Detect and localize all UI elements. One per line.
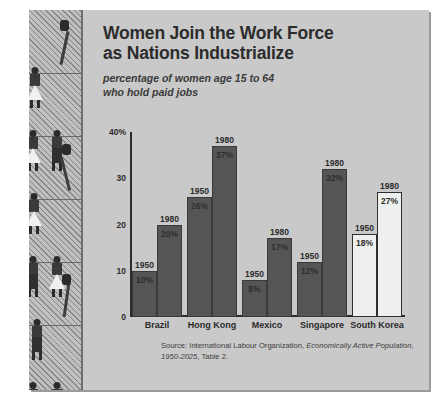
y-tick-10: 10 (100, 266, 126, 276)
illustration-panel-6 (29, 325, 81, 388)
illustration-panel-5 (29, 262, 81, 326)
bar-south-korea-1980: 198027% (377, 192, 402, 317)
bar-brazil-1950: 195010% (132, 271, 157, 317)
bar-south-korea-1950: 195018% (352, 234, 377, 317)
source-note: Source: International Labour Organizatio… (161, 340, 423, 362)
title-line-2: as Nations Industrialize (103, 44, 413, 64)
bar-year-label: 1950 (190, 186, 209, 196)
bar-value-label: 26% (191, 201, 208, 211)
chart-content: Women Join the Work Force as Nations Ind… (83, 10, 429, 390)
bar-value-label: 18% (356, 238, 373, 248)
bar-year-label: 1980 (270, 227, 289, 237)
bar-value-label: 12% (301, 266, 318, 276)
bar-mexico-1950: 19508% (242, 280, 267, 317)
bar-hong-kong-1980: 198037% (212, 146, 237, 317)
bar-value-label: 8% (248, 284, 260, 294)
category-label-south-korea: South Korea (350, 320, 404, 330)
source-prefix: Source: International Labour Organizatio… (161, 341, 306, 350)
bar-group-singapore: 195012%198032%Singapore (296, 132, 351, 317)
bar-value-label: 10% (136, 275, 153, 285)
y-tick-0: 0 (100, 312, 126, 322)
category-label-brazil: Brazil (145, 320, 170, 330)
bar-singapore-1980: 198032% (322, 169, 347, 317)
bar-value-label: 20% (161, 229, 178, 239)
illustration-panel-2 (29, 73, 81, 137)
bar-group-south-korea: 195018%198027%South Korea (351, 132, 406, 317)
bar-value-label: 32% (326, 173, 343, 183)
category-label-singapore: Singapore (300, 320, 344, 330)
y-tick-40: 40% (100, 127, 126, 137)
bar-value-label: 17% (271, 242, 288, 252)
title-line-1: Women Join the Work Force (103, 24, 413, 44)
bar-year-label: 1980 (215, 135, 234, 145)
bar-group-brazil: 195010%198020%Brazil (131, 132, 186, 317)
bar-hong-kong-1950: 195026% (187, 197, 212, 317)
bar-group-hong-kong: 195026%198037%Hong Kong (186, 132, 241, 317)
page-title: Women Join the Work Force as Nations Ind… (103, 24, 413, 64)
chart-subtitle: percentage of women age 15 to 64 who hol… (103, 72, 403, 99)
bar-value-label: 37% (216, 150, 233, 160)
y-tick-20: 20 (100, 220, 126, 230)
illustration-panel-4 (29, 199, 81, 263)
bar-year-label: 1950 (355, 223, 374, 233)
category-label-hong-kong: Hong Kong (188, 320, 237, 330)
y-tick-30: 30 (100, 173, 126, 183)
bar-brazil-1980: 198020% (157, 225, 182, 318)
bar-group-mexico: 19508%198017%Mexico (241, 132, 296, 317)
bar-value-label: 27% (381, 196, 398, 206)
women-workers-illustration-strip (29, 10, 83, 390)
category-label-mexico: Mexico (252, 320, 283, 330)
chart-plate: Women Join the Work Force as Nations Ind… (29, 10, 429, 390)
bar-mexico-1980: 198017% (267, 238, 292, 317)
illustration-panel-3 (29, 136, 81, 200)
bar-year-label: 1950 (245, 269, 264, 279)
bar-singapore-1950: 195012% (297, 262, 322, 318)
chart-page: Women Join the Work Force as Nations Ind… (0, 0, 446, 413)
bar-year-label: 1980 (325, 158, 344, 168)
source-suffix: , Table 2. (197, 352, 228, 361)
bar-year-label: 1950 (300, 251, 319, 261)
illustration-panel-1 (29, 10, 81, 74)
bar-year-label: 1980 (160, 214, 179, 224)
bar-year-label: 1980 (380, 181, 399, 191)
subtitle-line-2: who hold paid jobs (103, 86, 403, 100)
bar-chart-plot: 010203040% 195010%198020%Brazil195026%19… (130, 132, 405, 317)
subtitle-line-1: percentage of women age 15 to 64 (103, 72, 403, 86)
bar-year-label: 1950 (135, 260, 154, 270)
